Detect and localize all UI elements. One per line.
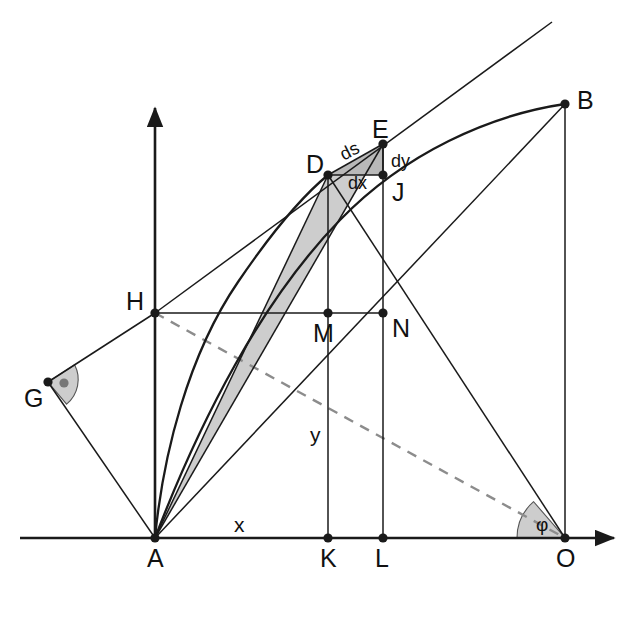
- point-label-G: G: [24, 386, 43, 411]
- dot-M: [323, 308, 332, 317]
- point-label-M: M: [313, 321, 334, 346]
- label-x-segment: x: [234, 514, 245, 535]
- point-label-H: H: [126, 289, 144, 314]
- point-label-B: B: [577, 88, 594, 113]
- diagram-canvas: A B D E G H J K L M N O x y ds dx dy φ: [0, 0, 643, 625]
- dot-A: [150, 533, 159, 542]
- point-label-E: E: [372, 117, 389, 142]
- label-phi-angle: φ: [536, 515, 548, 534]
- dot-G: [43, 377, 52, 386]
- dot-B: [560, 99, 569, 108]
- point-label-J: J: [392, 180, 405, 205]
- point-label-K: K: [320, 546, 337, 571]
- dot-L: [378, 533, 387, 542]
- label-y-segment: y: [310, 424, 321, 445]
- line-A-E: [155, 144, 383, 538]
- construction-lines: [48, 22, 565, 538]
- right-angle-dot-G: [59, 378, 68, 387]
- point-label-A: A: [147, 546, 164, 571]
- point-label-L: L: [375, 546, 389, 571]
- line-A-D: [155, 175, 328, 538]
- dot-O: [560, 533, 569, 542]
- dot-N: [378, 308, 387, 317]
- line-G-H: [48, 313, 155, 382]
- point-label-N: N: [392, 316, 410, 341]
- label-dx: dx: [348, 174, 367, 192]
- label-dy: dy: [391, 152, 410, 170]
- dot-H: [150, 308, 159, 317]
- point-label-D: D: [306, 152, 324, 177]
- angle-markers: [48, 365, 565, 538]
- dot-K: [323, 533, 332, 542]
- line-H-D-ext: [155, 22, 552, 313]
- dot-D: [323, 170, 332, 179]
- dot-J: [378, 170, 387, 179]
- line-A-G: [48, 382, 155, 538]
- point-label-O: O: [556, 546, 575, 571]
